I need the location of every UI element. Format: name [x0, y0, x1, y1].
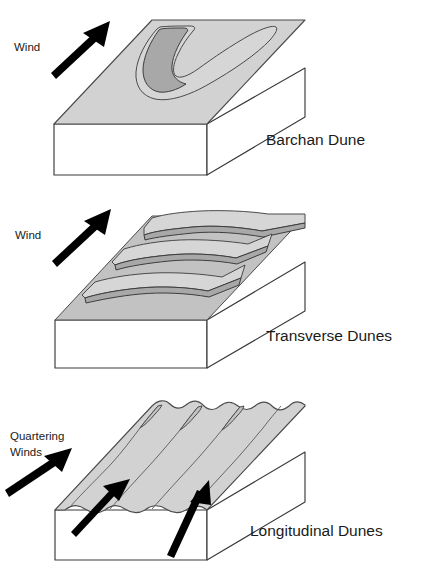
block-front-face	[54, 124, 207, 175]
wind-label: Wind	[15, 229, 41, 241]
wind-label-line2: Winds	[10, 446, 42, 458]
wind-label: Wind	[14, 41, 40, 53]
dune-types-figure: Wind Barchan Dune	[0, 0, 421, 581]
panel-transverse-dunes: Wind Transverse Dunes	[0, 190, 421, 380]
panel-caption-longitudinal: Longitudinal Dunes	[250, 522, 383, 539]
panel-caption-barchan: Barchan Dune	[266, 131, 365, 148]
wind-label-line1: Quartering	[10, 430, 64, 442]
panel-barchan-dune: Wind Barchan Dune	[0, 0, 421, 190]
panel-longitudinal-dunes: Quartering Winds Longitudinal Dunes	[0, 380, 421, 581]
block-front-face	[55, 320, 207, 368]
panel-caption-transverse: Transverse Dunes	[266, 327, 392, 344]
wind-arrow	[52, 209, 111, 267]
wind-arrow	[51, 21, 110, 79]
